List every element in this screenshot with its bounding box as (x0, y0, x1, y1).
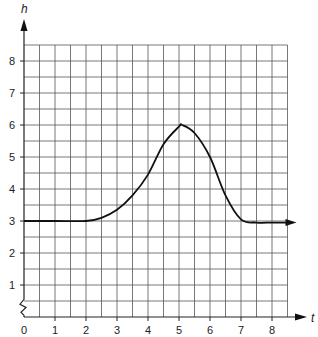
x-tick-label: 1 (52, 324, 58, 336)
data-curve (24, 124, 288, 223)
curve-arrow-icon (286, 219, 297, 226)
chart: 01234567812345678 t h (0, 0, 318, 337)
y-tick-label: 1 (9, 279, 15, 291)
y-tick-label: 4 (9, 183, 15, 195)
x-tick-label: 5 (176, 324, 182, 336)
x-tick-label: 7 (238, 324, 244, 336)
tick-labels: 01234567812345678 (9, 55, 275, 336)
y-tick-label: 8 (9, 55, 15, 67)
x-axis-label: t (311, 311, 315, 325)
x-tick-label: 2 (83, 324, 89, 336)
x-tick-label: 4 (145, 324, 151, 336)
y-tick-label: 6 (9, 119, 15, 131)
y-tick-label: 7 (9, 87, 15, 99)
y-tick-label: 2 (9, 247, 15, 259)
grid (24, 45, 288, 317)
x-tick-label: 8 (269, 324, 275, 336)
x-axis-arrow-icon (295, 314, 307, 321)
x-tick-label: 6 (207, 324, 213, 336)
x-tick-label: 0 (21, 324, 27, 336)
y-axis-break (20, 45, 26, 317)
y-tick-label: 3 (9, 215, 15, 227)
x-tick-label: 3 (114, 324, 120, 336)
y-axis-arrow-icon (21, 19, 28, 31)
y-axis-label: h (21, 2, 28, 16)
y-tick-label: 5 (9, 151, 15, 163)
